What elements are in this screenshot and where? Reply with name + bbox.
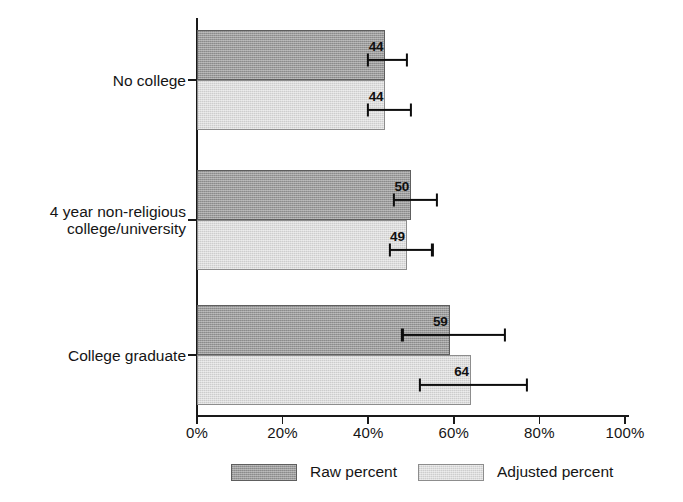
x-axis-tick	[367, 416, 369, 424]
bar-adjusted-0	[197, 80, 385, 130]
legend-swatch-adjusted-percent	[418, 464, 484, 481]
error-bar-cap-high	[525, 379, 527, 392]
legend-entry-raw-percent: Raw percent	[231, 458, 397, 486]
error-bar-adjusted-2	[420, 384, 527, 386]
data-label-adjusted-1: 49	[390, 229, 405, 244]
x-axis-tick-label: 60%	[438, 424, 469, 441]
x-axis-tick	[624, 416, 626, 424]
x-axis-tick	[453, 416, 455, 424]
x-axis-tick-label: 80%	[524, 424, 555, 441]
legend-label-adjusted-percent: Adjusted percent	[497, 463, 613, 481]
x-axis-line	[196, 415, 629, 417]
error-bar-raw-2	[402, 334, 505, 336]
x-axis-tick	[282, 416, 284, 424]
y-axis-category-label: College graduate	[68, 347, 186, 364]
error-bar-cap-high	[410, 104, 412, 117]
error-bar-raw-0	[368, 59, 407, 61]
x-axis-tick-label: 100%	[605, 424, 644, 441]
error-bar-cap-high	[406, 54, 408, 67]
bar-raw-1	[197, 170, 411, 220]
bar-raw-2	[197, 305, 450, 355]
error-bar-raw-1	[394, 199, 437, 201]
legend-label-raw-percent: Raw percent	[310, 463, 397, 481]
y-axis-category-label: No college	[113, 72, 186, 89]
y-axis-tick	[188, 79, 197, 81]
error-bar-cap-high	[436, 194, 438, 207]
data-label-adjusted-2: 64	[454, 364, 469, 379]
error-bar-cap-high	[431, 244, 433, 257]
data-label-raw-0: 44	[369, 39, 384, 54]
chart-legend: Raw percent Adjusted percent	[0, 458, 683, 492]
x-axis-tick	[539, 416, 541, 424]
bar-adjusted-2	[197, 355, 471, 405]
error-bar-cap-high	[504, 329, 506, 342]
x-axis-tick-label: 0%	[186, 424, 208, 441]
data-label-raw-1: 50	[394, 179, 409, 194]
x-axis-tick-label: 20%	[267, 424, 298, 441]
legend-swatch-raw-percent	[231, 464, 297, 481]
error-bar-cap-low	[418, 379, 420, 392]
x-axis-tick	[196, 416, 198, 424]
x-axis-tick-label: 40%	[353, 424, 384, 441]
data-label-raw-2: 59	[433, 314, 448, 329]
data-label-adjusted-0: 44	[369, 89, 384, 104]
error-bar-cap-low	[367, 104, 369, 117]
error-bar-adjusted-0	[368, 109, 411, 111]
error-bar-cap-low	[401, 329, 403, 342]
y-axis-category-label: 4 year non-religious college/university	[50, 203, 186, 237]
bar-adjusted-1	[197, 220, 407, 270]
bar-raw-0	[197, 30, 385, 80]
y-axis-tick	[188, 354, 197, 356]
y-axis-tick	[188, 219, 197, 221]
error-bar-cap-low	[367, 54, 369, 67]
error-bar-cap-low	[393, 194, 395, 207]
legend-entry-adjusted-percent: Adjusted percent	[418, 458, 613, 486]
bar-chart: 445059444964 0%20%40%60%80%100%No colleg…	[0, 0, 683, 502]
error-bar-adjusted-1	[390, 249, 433, 251]
error-bar-cap-low	[389, 244, 391, 257]
